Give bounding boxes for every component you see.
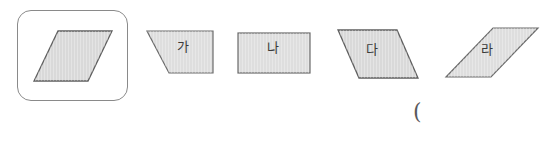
option-label-da: 다	[366, 43, 378, 56]
geometry-worksheet: 가 나 다 라 (	[0, 0, 557, 142]
option-shape-da[interactable]	[334, 26, 422, 82]
option-da-svg	[334, 26, 422, 82]
option-label-ga: 가	[177, 40, 189, 53]
parallelogram-path	[338, 30, 418, 78]
reference-parallelogram-path	[34, 31, 112, 81]
reference-parallelogram[interactable]	[17, 10, 128, 101]
reference-parallelogram-svg	[17, 10, 128, 101]
option-label-na: 나	[267, 41, 279, 54]
answer-parenthesis: (	[413, 101, 422, 123]
option-label-ra: 라	[481, 43, 493, 56]
